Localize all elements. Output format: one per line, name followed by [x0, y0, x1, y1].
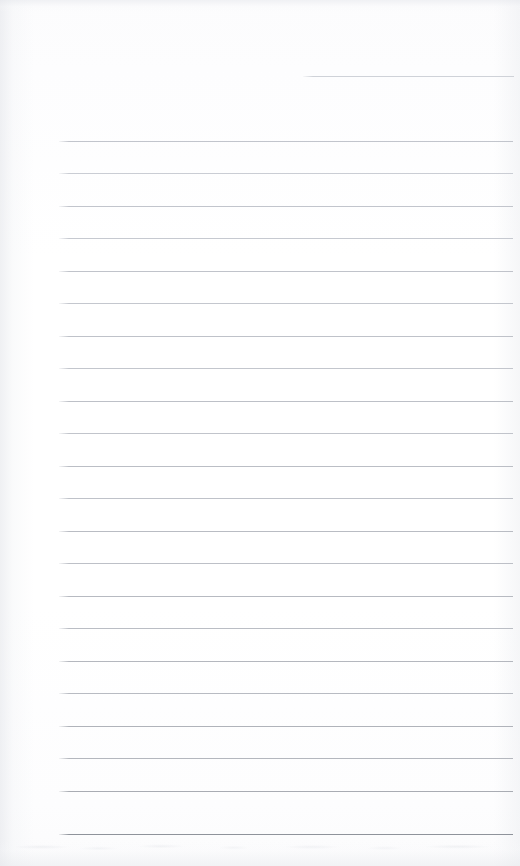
rule-top-partial: [303, 76, 514, 77]
scanned-page: [0, 0, 520, 866]
page-body-text: [59, 141, 513, 841]
